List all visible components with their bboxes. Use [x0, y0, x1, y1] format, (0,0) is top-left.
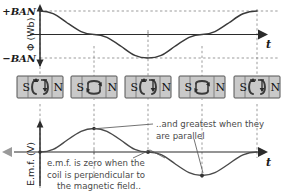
- flux-tick-plus-ban: +BAN: [2, 6, 37, 17]
- magnet-3-south-label: S: [131, 81, 139, 94]
- figure-canvas: +BAN −BAN Φ (Wb) t E.m.f. (V) t S N S N …: [0, 0, 283, 196]
- flux-y-axis-label: Φ (Wb): [25, 18, 36, 51]
- magnet-5-south-label: S: [240, 81, 248, 94]
- magnet-4-north-label: N: [216, 81, 226, 94]
- annotation-zero: e.m.f. is zero when the coil is perpendi…: [47, 158, 148, 191]
- annotation-greatest-line-2: are parallel: [156, 131, 205, 141]
- flux-chart: [30, 4, 268, 66]
- emf-point-origin: [38, 150, 41, 153]
- magnet-4-south-label: S: [185, 81, 193, 94]
- annotation-greatest: ..and greatest when they are parallel: [156, 119, 267, 141]
- magnet-2-south-label: S: [77, 81, 85, 94]
- emf-x-axis-arrow-left: [2, 147, 12, 157]
- flux-x-axis-label: t: [266, 38, 271, 51]
- annotation-zero-line-2: coil is perpendicular to: [47, 170, 145, 180]
- flux-tick-minus-ban: −BAN: [2, 53, 37, 64]
- emf-y-axis-arrow: [37, 120, 44, 128]
- magnet-2-north-label: N: [108, 81, 118, 94]
- magnet-1-north-label: N: [54, 81, 64, 94]
- flux-y-axis-label-text: Φ (Wb): [25, 18, 36, 51]
- leader-to-peak: [94, 124, 153, 129]
- emf-point-trough: [200, 174, 204, 178]
- figure-root: +BAN −BAN Φ (Wb) t E.m.f. (V) t S N S N …: [0, 0, 283, 196]
- annotation-greatest-line-1: ..and greatest when they: [156, 119, 264, 129]
- annotation-zero-line-1: e.m.f. is zero when the: [47, 158, 145, 168]
- magnet-5-north-label: N: [271, 81, 281, 94]
- leader-to-zero-b: [150, 150, 165, 158]
- emf-y-axis-label: E.m.f. (V): [25, 142, 36, 186]
- magnet-1-south-label: S: [23, 81, 31, 94]
- magnet-3-north-label: N: [162, 81, 172, 94]
- annotation-zero-line-3: the magnetic field..: [57, 181, 141, 191]
- emf-y-axis-label-text: E.m.f. (V): [25, 142, 36, 186]
- emf-x-axis-label: t: [266, 156, 271, 169]
